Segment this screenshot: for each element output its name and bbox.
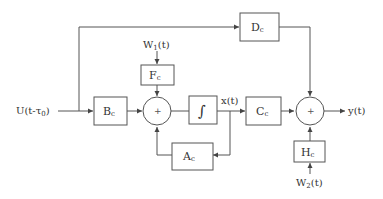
dc-to-sum2-line bbox=[279, 27, 310, 96]
block-dc: Dc bbox=[240, 13, 279, 41]
block-integrator: ∫ bbox=[189, 96, 217, 124]
summing-junction-1: + bbox=[143, 97, 171, 125]
svg-text:+: + bbox=[307, 106, 315, 116]
block-ac: Ac bbox=[172, 143, 213, 170]
integral-icon: ∫ bbox=[198, 102, 206, 120]
svg-text:+: + bbox=[154, 106, 162, 116]
block-bc: Bc bbox=[94, 97, 127, 125]
block-diagram: Bc Fc ∫ Ac Cc Dc Hc + + U(t-τ0) W1(t) x(… bbox=[0, 0, 383, 199]
ac-to-sum1-line bbox=[157, 127, 172, 155]
w1-label: W1(t) bbox=[143, 39, 170, 52]
w2-label: W2(t) bbox=[296, 177, 323, 190]
block-hc: Hc bbox=[294, 141, 325, 162]
block-cc: Cc bbox=[246, 97, 281, 125]
output-label: y(t) bbox=[347, 105, 366, 116]
state-label: x(t) bbox=[221, 95, 239, 106]
input-label: U(t-τ0) bbox=[16, 105, 50, 118]
block-fc: Fc bbox=[141, 65, 174, 85]
summing-junction-2: + bbox=[296, 97, 324, 125]
